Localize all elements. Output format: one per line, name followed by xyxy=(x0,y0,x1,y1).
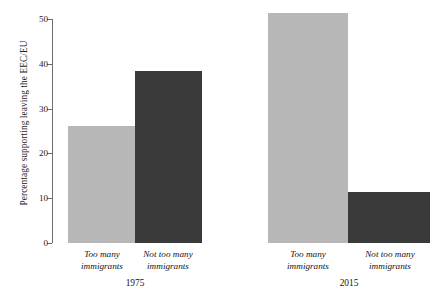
label-line-2: immigrants xyxy=(266,261,350,273)
group-label-1975: 1975 xyxy=(93,278,177,288)
label-line-1: Not too many xyxy=(126,249,210,261)
bar-2015-not-too-many-immigrants xyxy=(348,192,430,243)
bar-1975-not-too-many-immigrants xyxy=(135,71,202,243)
bars-container xyxy=(52,19,433,243)
label-line-2: immigrants xyxy=(126,261,210,273)
y-tick-label-20: 20 xyxy=(39,148,48,158)
plot-area: 50403020100 xyxy=(52,19,433,243)
y-tick-label-50: 50 xyxy=(39,14,48,24)
category-label-2015-not-too-many: Not too many immigrants xyxy=(347,249,433,272)
bar-2015-too-many-immigrants xyxy=(268,13,348,243)
bar-1975-too-many-immigrants xyxy=(68,126,135,243)
y-tick-label-40: 40 xyxy=(39,59,48,69)
y-tick-label-10: 10 xyxy=(39,193,48,203)
y-tick-label-30: 30 xyxy=(39,104,48,114)
label-line-1: Not too many xyxy=(347,249,433,261)
group-label-2015: 2015 xyxy=(307,278,391,288)
bar-chart: Percentage supporting leaving the EEC/EU… xyxy=(0,0,438,299)
label-line-2: immigrants xyxy=(347,261,433,273)
y-tick-label-0: 0 xyxy=(44,238,49,248)
label-line-1: Too many xyxy=(266,249,350,261)
y-axis-title: Percentage supporting leaving the EEC/EU xyxy=(19,3,29,243)
category-label-2015-too-many: Too many immigrants xyxy=(266,249,350,272)
category-label-1975-not-too-many: Not too many immigrants xyxy=(126,249,210,272)
